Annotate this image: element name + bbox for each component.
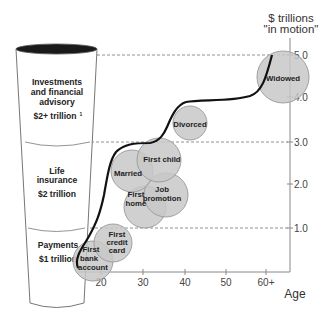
funnel-top-label-1: Investments [32,77,82,87]
event-widowed: Widowed [266,74,300,83]
event-first-child: First child [143,155,180,164]
event-first-bank-2: bank [80,254,99,263]
x-tick-40: 40 [179,277,191,288]
y-tick-2: 2.0 [294,179,308,190]
funnel-top-rim [16,44,97,54]
event-first-bank-1: First [83,245,100,254]
x-tick-60plus: 60+ [258,277,275,288]
event-job-1: Job [155,185,169,194]
x-tick-30: 30 [137,277,149,288]
y-tick-1: 1.0 [294,223,308,234]
event-credit-3: card [109,246,126,255]
funnel-top-label-3: advisory [39,97,75,107]
funnel-bot-value: $1 trillion [39,254,77,264]
event-first-bank-3: account [78,263,108,272]
x-axis-title: Age [284,287,306,301]
event-job-2: promotion [143,194,182,203]
y-axis-title-2: "in motion" [264,23,319,35]
y-tick-3: 3.0 [294,137,308,148]
funnel-mid-label-2: insurance [37,175,78,185]
funnel-bot-label-1: Payments [38,240,79,250]
life-events-diagram: Investments and financial advisory $2+ t… [0,0,324,315]
funnel-top-value: $2+ trillion [33,111,76,121]
funnel-top-label-2: and financial [31,87,84,97]
event-divorced: Divorced [173,120,207,129]
funnel-top-footnote: 1 [80,111,83,117]
funnel-mid-value: $2 trillion [38,189,76,199]
event-married: Married [114,169,142,178]
x-tick-50: 50 [220,277,232,288]
